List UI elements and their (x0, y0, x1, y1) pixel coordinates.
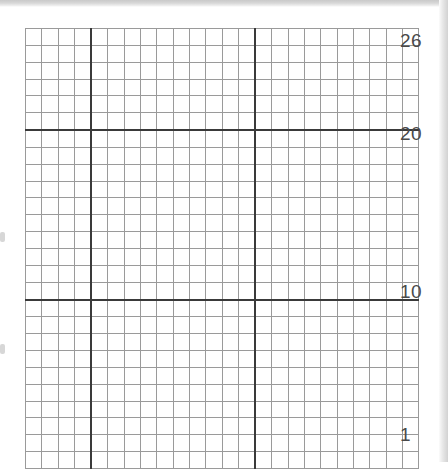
cell-empty[interactable] (141, 113, 157, 130)
cell-leaf[interactable] (321, 113, 337, 130)
cell-empty[interactable] (272, 198, 288, 215)
cell-leaf[interactable] (124, 45, 140, 62)
cell-empty[interactable] (157, 282, 173, 299)
cell-empty[interactable] (74, 29, 91, 46)
cell-empty[interactable] (337, 45, 353, 62)
cell-leaf[interactable] (157, 96, 173, 113)
cell-empty[interactable] (26, 130, 42, 147)
cell-empty[interactable] (288, 215, 304, 232)
cell-empty[interactable] (321, 248, 337, 265)
cell-empty[interactable] (26, 401, 42, 418)
cell-empty[interactable] (370, 79, 386, 96)
cell-empty[interactable] (157, 367, 173, 384)
cell-empty[interactable] (206, 351, 222, 368)
cell-empty[interactable] (42, 367, 58, 384)
cell-leaf[interactable] (157, 79, 173, 96)
cell-empty[interactable] (321, 384, 337, 401)
cell-empty[interactable] (402, 334, 418, 351)
cell-empty[interactable] (222, 96, 238, 113)
cell-empty[interactable] (402, 265, 418, 282)
cell-leaf[interactable] (288, 79, 304, 96)
cell-empty[interactable] (222, 452, 238, 469)
cell-empty[interactable] (206, 181, 222, 198)
cell-leaf[interactable] (255, 282, 272, 299)
cell-empty[interactable] (206, 232, 222, 249)
cell-empty[interactable] (402, 452, 418, 469)
cell-fruit[interactable] (255, 351, 272, 368)
cell-fruit[interactable] (124, 265, 140, 282)
cell-empty[interactable] (91, 435, 108, 452)
cell-fruit[interactable] (124, 300, 140, 317)
cell-fruit[interactable] (74, 351, 91, 368)
cell-empty[interactable] (74, 452, 91, 469)
cell-leaf[interactable] (108, 130, 124, 147)
cell-empty[interactable] (108, 29, 124, 46)
cell-light[interactable] (272, 317, 288, 334)
cell-empty[interactable] (124, 232, 140, 249)
cell-empty[interactable] (255, 181, 272, 198)
cell-empty[interactable] (370, 164, 386, 181)
cell-fruit[interactable] (288, 334, 304, 351)
cell-empty[interactable] (206, 418, 222, 435)
cell-fruit[interactable] (141, 334, 157, 351)
cell-empty[interactable] (370, 317, 386, 334)
cell-leaf[interactable] (255, 62, 272, 79)
cell-empty[interactable] (337, 29, 353, 46)
cell-empty[interactable] (353, 317, 369, 334)
cell-leaf[interactable] (238, 147, 255, 164)
cell-fruit[interactable] (272, 351, 288, 368)
cell-empty[interactable] (58, 198, 74, 215)
cell-empty[interactable] (124, 215, 140, 232)
cell-empty[interactable] (58, 164, 74, 181)
cell-empty[interactable] (26, 113, 42, 130)
cell-empty[interactable] (108, 181, 124, 198)
cell-empty[interactable] (26, 45, 42, 62)
cell-leaf[interactable] (108, 79, 124, 96)
cell-leaf[interactable] (238, 45, 255, 62)
cell-empty[interactable] (189, 435, 205, 452)
cell-empty[interactable] (141, 147, 157, 164)
cell-fruit[interactable] (288, 418, 304, 435)
cell-leaf[interactable] (58, 113, 74, 130)
cell-empty[interactable] (42, 317, 58, 334)
cell-empty[interactable] (255, 452, 272, 469)
cell-empty[interactable] (157, 113, 173, 130)
cell-fruit[interactable] (222, 384, 238, 401)
cell-empty[interactable] (74, 62, 91, 79)
cell-empty[interactable] (74, 215, 91, 232)
cell-empty[interactable] (58, 401, 74, 418)
cell-leaf[interactable] (238, 130, 255, 147)
cell-empty[interactable] (370, 367, 386, 384)
cell-empty[interactable] (157, 435, 173, 452)
cell-empty[interactable] (173, 181, 189, 198)
cell-empty[interactable] (141, 29, 157, 46)
cell-empty[interactable] (189, 317, 205, 334)
cell-leaf[interactable] (337, 113, 353, 130)
cell-leaf[interactable] (321, 79, 337, 96)
cell-empty[interactable] (321, 164, 337, 181)
cell-fruit[interactable] (272, 367, 288, 384)
cell-empty[interactable] (173, 198, 189, 215)
cell-empty[interactable] (157, 215, 173, 232)
cell-fruit[interactable] (141, 265, 157, 282)
cell-empty[interactable] (321, 181, 337, 198)
cell-empty[interactable] (108, 147, 124, 164)
cell-empty[interactable] (222, 282, 238, 299)
cell-empty[interactable] (26, 418, 42, 435)
cell-leaf[interactable] (288, 45, 304, 62)
cell-empty[interactable] (42, 265, 58, 282)
cell-empty[interactable] (370, 265, 386, 282)
cell-empty[interactable] (386, 164, 402, 181)
cell-empty[interactable] (222, 113, 238, 130)
cell-empty[interactable] (141, 130, 157, 147)
cell-empty[interactable] (26, 79, 42, 96)
cell-leaf[interactable] (108, 198, 124, 215)
cell-leaf[interactable] (91, 96, 108, 113)
cell-leaf[interactable] (206, 45, 222, 62)
cell-empty[interactable] (305, 164, 321, 181)
cell-empty[interactable] (74, 418, 91, 435)
cell-empty[interactable] (91, 401, 108, 418)
cell-leaf[interactable] (305, 62, 321, 79)
cell-empty[interactable] (173, 435, 189, 452)
cell-empty[interactable] (26, 435, 42, 452)
